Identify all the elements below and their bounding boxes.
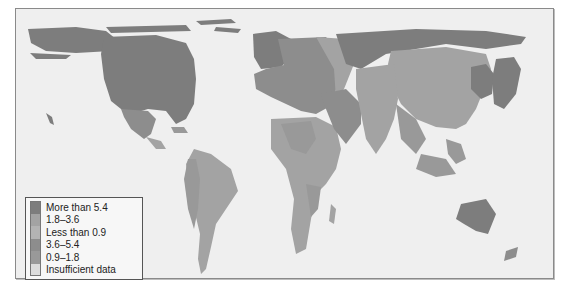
legend-item: 1.8–3.6 — [30, 214, 138, 227]
region-africa — [271, 117, 341, 254]
legend-label: Insufficient data — [46, 264, 116, 275]
map-frame: More than 5.4 1.8–3.6 Less than 0.9 3.6–… — [15, 8, 554, 279]
region-arctic-islands — [196, 19, 241, 33]
region-oceania — [456, 199, 518, 261]
legend: More than 5.4 1.8–3.6 Less than 0.9 3.6–… — [25, 197, 143, 280]
region-north-america — [28, 25, 196, 149]
legend-swatch — [30, 201, 41, 214]
legend-label: Less than 0.9 — [46, 227, 106, 238]
legend-item: Insufficient data — [30, 264, 138, 277]
legend-swatch — [30, 239, 41, 252]
region-south-america — [184, 149, 238, 274]
legend-swatch — [30, 226, 41, 239]
legend-item: 3.6–5.4 — [30, 239, 138, 252]
legend-item: 0.9–1.8 — [30, 251, 138, 264]
legend-label: 3.6–5.4 — [46, 239, 79, 250]
legend-item: More than 5.4 — [30, 201, 138, 214]
region-asia — [356, 47, 521, 177]
legend-swatch — [30, 214, 41, 227]
legend-label: 1.8–3.6 — [46, 214, 79, 225]
legend-item: Less than 0.9 — [30, 226, 138, 239]
legend-label: 0.9–1.8 — [46, 252, 79, 263]
legend-label: More than 5.4 — [46, 202, 108, 213]
legend-swatch — [30, 264, 41, 277]
legend-swatch — [30, 251, 41, 264]
